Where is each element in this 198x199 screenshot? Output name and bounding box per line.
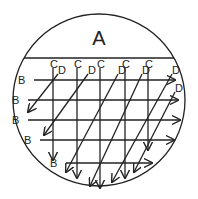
diagonal-label-d: D xyxy=(172,64,180,76)
row-label-b: B xyxy=(24,134,31,146)
diagonal-label-d: D xyxy=(175,82,183,94)
diagonal-arrow xyxy=(66,74,118,172)
diagonal-label-d: D xyxy=(88,64,96,76)
row-label-b: B xyxy=(18,74,25,86)
diagonal-label-d: D xyxy=(142,64,150,76)
diagram-canvas: A BBBBB CCCCC DDDDDD xyxy=(0,0,198,199)
column-label-c: C xyxy=(74,58,82,70)
column-label-c: C xyxy=(50,58,58,70)
diagonal-label-d: D xyxy=(118,64,126,76)
region-label-a: A xyxy=(92,27,106,49)
column-label-c: C xyxy=(97,58,105,70)
diagonal-arrow xyxy=(112,74,172,182)
row-label-b: B xyxy=(12,114,19,126)
row-label-b: B xyxy=(12,94,19,106)
row-label-b: B xyxy=(50,157,57,169)
diagonal-label-d: D xyxy=(58,64,66,76)
diagonal-arrow xyxy=(90,74,142,186)
row-arrows: BBBBB xyxy=(12,74,180,169)
column-arrows: CCCCC xyxy=(50,58,153,188)
